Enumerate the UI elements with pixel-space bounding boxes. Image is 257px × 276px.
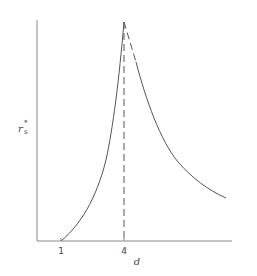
chart-svg: 1 4 d r s * <box>0 0 257 276</box>
y-axis-label-superscript: * <box>24 119 28 127</box>
rising-curve <box>61 22 124 241</box>
x-tick-label-1: 1 <box>58 246 64 256</box>
x-tick-label-4: 4 <box>121 246 127 256</box>
x-axis-label: d <box>134 256 140 267</box>
y-axis-label-subscript: s <box>24 128 28 136</box>
y-axis-label: r s * <box>18 119 28 136</box>
chart-figure: 1 4 d r s * <box>0 0 257 276</box>
falling-curve <box>136 62 226 198</box>
peak-dashed-connector <box>124 22 136 62</box>
